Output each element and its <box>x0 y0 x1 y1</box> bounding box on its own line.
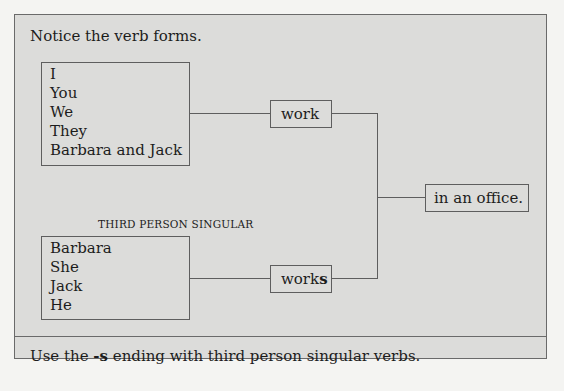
complement-box: in an office. <box>425 184 529 212</box>
verb-box-works: works <box>270 265 332 293</box>
verb-ending: s <box>319 270 327 288</box>
verb-work: work <box>281 105 319 123</box>
footer-emphasis: -s <box>93 347 108 365</box>
subject-item: I <box>50 65 189 84</box>
connector-line <box>332 113 378 114</box>
verb-box-work: work <box>270 100 332 128</box>
connector-line <box>377 197 425 198</box>
bracket-line <box>377 113 378 279</box>
third-person-heading: THIRD PERSON SINGULAR <box>98 218 253 230</box>
connector-line <box>190 113 270 114</box>
subject-item: She <box>50 258 189 277</box>
panel-divider <box>14 336 547 337</box>
footer-text: ending with third person singular verbs. <box>108 347 420 365</box>
complement-text: in an office. <box>434 189 523 207</box>
subject-item: We <box>50 103 189 122</box>
subject-item: They <box>50 122 189 141</box>
footer-text: Use the <box>30 347 93 365</box>
subject-item: You <box>50 84 189 103</box>
subject-item: Jack <box>50 277 189 296</box>
subject-item: Barbara <box>50 239 189 258</box>
verb-stem: work <box>281 270 319 288</box>
singular-subjects-box: Barbara She Jack He <box>41 236 190 320</box>
footer-rule: Use the -s ending with third person sing… <box>30 347 420 365</box>
plural-subjects-box: I You We They Barbara and Jack <box>41 62 190 166</box>
connector-line <box>190 278 270 279</box>
panel-title: Notice the verb forms. <box>30 27 202 45</box>
subject-item: Barbara and Jack <box>50 141 189 160</box>
connector-line <box>332 278 378 279</box>
subject-item: He <box>50 296 189 315</box>
